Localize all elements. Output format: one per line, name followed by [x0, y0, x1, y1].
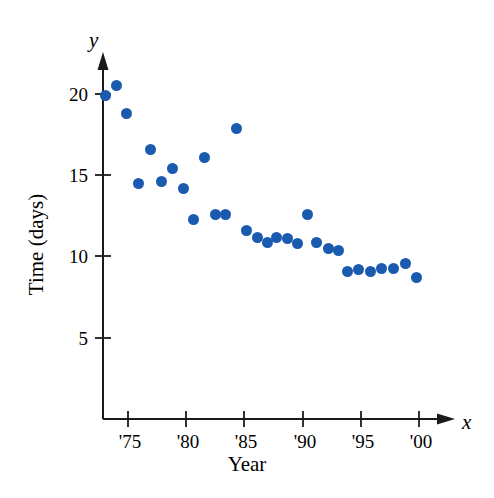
x-tick-label-00: '00	[410, 432, 432, 451]
data-point	[302, 209, 313, 220]
data-point	[252, 232, 263, 243]
y-axis-arrowhead	[98, 52, 109, 70]
scatter-plot-figure: y x 20 15 10 5 '75 '80 '85 '90 '95 '00 T…	[0, 0, 494, 498]
data-point	[333, 245, 344, 256]
data-point	[388, 263, 399, 274]
x-tick-label-75: '75	[119, 432, 141, 451]
data-point	[400, 258, 411, 269]
data-point	[167, 163, 178, 174]
x-tick-label-80: '80	[177, 432, 199, 451]
data-point	[323, 243, 334, 254]
x-tick-label-85: '85	[235, 432, 257, 451]
y-axis-variable-label: y	[89, 28, 98, 53]
plot-area: y x 20 15 10 5 '75 '80 '85 '90 '95 '00 T…	[0, 0, 494, 498]
y-tick-label-5: 5	[50, 329, 88, 348]
y-axis-title: Time (days)	[24, 165, 49, 325]
y-tick-label-20: 20	[50, 85, 88, 104]
data-point	[133, 178, 144, 189]
data-point	[210, 209, 221, 220]
data-point	[188, 214, 199, 225]
x-axis-arrowhead	[437, 414, 455, 425]
x-tick-label-90: '90	[294, 432, 316, 451]
data-point	[145, 144, 156, 155]
y-tick-label-10: 10	[50, 247, 88, 266]
y-tick-label-15: 15	[50, 166, 88, 185]
x-tick-label-95: '95	[352, 432, 374, 451]
data-point	[311, 237, 322, 248]
data-point	[365, 266, 376, 277]
data-point	[231, 123, 242, 134]
x-axis-title: Year	[0, 452, 494, 477]
x-axis-variable-label: x	[462, 410, 471, 435]
data-point	[376, 263, 387, 274]
